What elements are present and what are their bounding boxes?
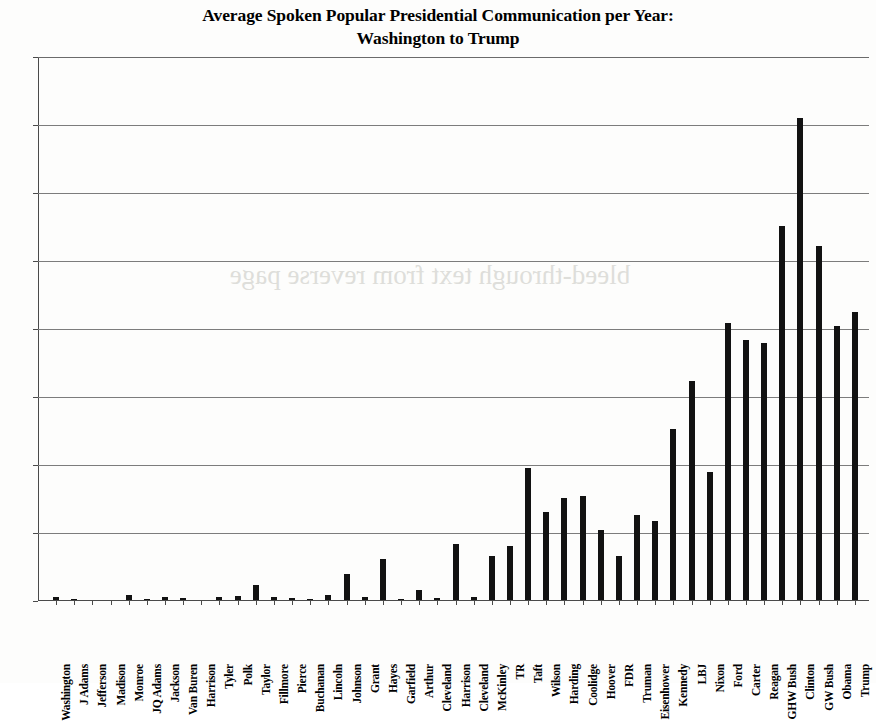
x-axis-tick-mark bbox=[74, 601, 75, 605]
bar bbox=[779, 226, 785, 600]
x-axis-tick-mark bbox=[419, 601, 420, 605]
x-axis-tick-mark bbox=[728, 601, 729, 605]
x-axis-tick-mark bbox=[528, 601, 529, 605]
x-axis-tick-mark bbox=[256, 601, 257, 605]
x-axis-tick-label: Trump bbox=[860, 664, 871, 697]
x-axis-tick-mark bbox=[238, 601, 239, 605]
bar bbox=[453, 544, 459, 600]
x-axis-tick-label: Wilson bbox=[551, 664, 562, 697]
bar bbox=[816, 246, 822, 600]
x-axis-tick-label: Harrison bbox=[461, 664, 472, 707]
bar bbox=[325, 595, 331, 600]
x-axis-tick-label: Jefferson bbox=[97, 664, 108, 708]
bar bbox=[126, 595, 132, 600]
bar bbox=[344, 574, 350, 600]
bar bbox=[289, 598, 295, 600]
x-axis-tick-mark bbox=[746, 601, 747, 605]
bar bbox=[307, 599, 313, 601]
bar bbox=[580, 496, 586, 600]
x-axis-tick-mark bbox=[710, 601, 711, 605]
x-axis-tick-label: Johnson bbox=[352, 664, 363, 704]
x-axis-tick-mark bbox=[492, 601, 493, 605]
bar bbox=[652, 521, 658, 600]
bar bbox=[71, 599, 77, 601]
x-axis-tick-label: Eisenhower bbox=[660, 664, 671, 720]
x-axis-tick-mark bbox=[111, 601, 112, 605]
x-axis-tick-label: Fillmore bbox=[279, 664, 290, 704]
x-axis-tick-mark bbox=[165, 601, 166, 605]
x-axis-tick-mark bbox=[274, 601, 275, 605]
bar bbox=[253, 585, 259, 600]
x-axis-tick-label: Monroe bbox=[134, 664, 145, 702]
x-axis-tick-label: LBJ bbox=[697, 664, 708, 685]
x-axis-tick-mark bbox=[764, 601, 765, 605]
y-axis-tick-mark bbox=[33, 261, 38, 262]
x-axis-tick-mark bbox=[692, 601, 693, 605]
x-axis-tick-mark bbox=[365, 601, 366, 605]
bar bbox=[761, 343, 767, 600]
x-axis-tick-mark bbox=[401, 601, 402, 605]
x-axis-tick-label: TR bbox=[515, 664, 526, 680]
bar bbox=[507, 546, 513, 600]
bar bbox=[834, 326, 840, 600]
x-axis-tick-mark bbox=[292, 601, 293, 605]
x-axis-tick-mark bbox=[147, 601, 148, 605]
bar bbox=[616, 556, 622, 600]
x-axis-tick-label: Arthur bbox=[424, 664, 435, 698]
x-axis-tick-label: Obama bbox=[842, 664, 853, 699]
x-axis-tick-mark bbox=[92, 601, 93, 605]
x-axis-tick-label: Ford bbox=[733, 664, 744, 687]
x-axis-tick-label: Tyler bbox=[224, 664, 235, 689]
y-axis-tick-mark bbox=[33, 533, 38, 534]
gridline bbox=[38, 261, 869, 262]
y-axis-tick-mark bbox=[33, 601, 38, 602]
bar bbox=[743, 340, 749, 600]
x-axis-tick-mark bbox=[546, 601, 547, 605]
x-axis-tick-label: GHW Bush bbox=[787, 664, 798, 719]
x-axis-tick-mark bbox=[564, 601, 565, 605]
bar bbox=[271, 597, 277, 600]
bar bbox=[144, 599, 150, 601]
x-axis-tick-label: Buchanan bbox=[315, 664, 326, 712]
x-axis-tick-mark bbox=[219, 601, 220, 605]
bar bbox=[471, 597, 477, 600]
gridline bbox=[38, 329, 869, 330]
gridline bbox=[38, 125, 869, 126]
x-axis-tick-label: Cleveland bbox=[479, 664, 490, 711]
x-axis-tick-label: Van Buren bbox=[188, 664, 199, 715]
bar bbox=[235, 596, 241, 600]
x-axis-tick-mark bbox=[655, 601, 656, 605]
x-axis-tick-mark bbox=[474, 601, 475, 605]
x-axis-tick-label: Washington bbox=[61, 664, 72, 721]
x-axis-tick-label: Kennedy bbox=[678, 664, 689, 707]
x-axis-tick-label: Lincoln bbox=[333, 664, 344, 700]
bar bbox=[543, 512, 549, 600]
x-axis-tick-label: Cleveland bbox=[442, 664, 453, 711]
x-axis-tick-mark bbox=[437, 601, 438, 605]
bar bbox=[398, 599, 404, 601]
chart-title-line-1: Average Spoken Popular Presidential Comm… bbox=[202, 5, 673, 25]
bar bbox=[598, 530, 604, 600]
y-axis-tick-mark bbox=[33, 193, 38, 194]
x-axis-tick-label: FDR bbox=[624, 664, 635, 687]
y-axis-tick-mark bbox=[33, 57, 38, 58]
x-axis-tick-mark bbox=[183, 601, 184, 605]
x-axis-tick-label: Reagan bbox=[769, 664, 780, 700]
bar bbox=[561, 498, 567, 600]
x-axis-tick-label: Coolidge bbox=[588, 664, 599, 706]
bar bbox=[707, 472, 713, 600]
bar bbox=[362, 597, 368, 600]
chart-title: Average Spoken Popular Presidential Comm… bbox=[0, 4, 876, 50]
y-axis-tick-mark bbox=[33, 465, 38, 466]
x-axis-tick-mark bbox=[800, 601, 801, 605]
x-axis-tick-mark bbox=[637, 601, 638, 605]
bar bbox=[725, 323, 731, 600]
plot-area: 8007006005004003002001000 WashingtonJ Ad… bbox=[38, 57, 869, 601]
x-axis-tick-mark bbox=[310, 601, 311, 605]
x-axis-tick-label: Polk bbox=[243, 664, 254, 686]
bar bbox=[852, 312, 858, 600]
bar bbox=[689, 381, 695, 600]
x-axis-tick-mark bbox=[782, 601, 783, 605]
y-axis-tick-mark bbox=[33, 125, 38, 126]
